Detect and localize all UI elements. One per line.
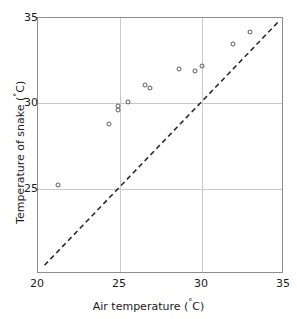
data-point	[147, 85, 152, 90]
data-point	[106, 121, 111, 126]
gridline-horizontal-30	[38, 103, 282, 104]
x-axis-title-text: Air temperature (	[93, 300, 189, 313]
gridline-vertical-30	[202, 18, 203, 272]
degree-symbol-icon: °	[13, 93, 22, 97]
data-point	[116, 108, 121, 113]
data-point	[55, 183, 60, 188]
y-axis-title-unit: C)	[14, 81, 27, 93]
plot-area	[37, 17, 283, 273]
gridline-horizontal-25	[38, 189, 282, 190]
x-axis-title: Air temperature (°C)	[0, 298, 297, 313]
reference-line	[38, 18, 282, 272]
x-tick-label-25: 25	[112, 277, 126, 290]
x-tick-label-20: 20	[30, 277, 44, 290]
data-point	[177, 67, 182, 72]
data-point	[126, 99, 131, 104]
scatter-plot-figure: 253035 20253035 Air temperature (°C) Tem…	[0, 0, 297, 319]
y-tick-label-35: 35	[24, 11, 38, 24]
data-point	[247, 29, 252, 34]
data-point	[231, 41, 236, 46]
x-tick-label-35: 35	[276, 277, 290, 290]
y-axis-title: Temperature of snake (°C)	[13, 72, 28, 232]
y-axis-title-text: Temperature of snake (	[14, 97, 27, 224]
data-point	[193, 68, 198, 73]
x-tick-label-30: 30	[194, 277, 208, 290]
x-axis-title-unit: C)	[192, 300, 204, 313]
data-point	[116, 103, 121, 108]
data-point	[200, 63, 205, 68]
gridline-vertical-25	[120, 18, 121, 272]
